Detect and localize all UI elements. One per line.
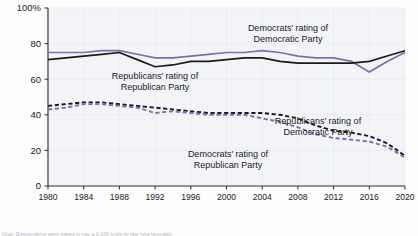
y-tick-label: 100% [17, 2, 42, 13]
line-chart: 100%806040200 19801984198819921996200020… [0, 0, 418, 236]
x-tick-label: 1980 [38, 192, 57, 202]
x-tick-label: 2000 [217, 192, 236, 202]
annotation-line: Republicans' rating of [275, 116, 362, 126]
chart-container: 100%806040200 19801984198819921996200020… [0, 0, 418, 236]
x-tick-label: 2012 [324, 192, 343, 202]
x-tick-label: 1996 [181, 192, 200, 202]
x-tick-label: 2016 [360, 192, 379, 202]
annotation-line: Republican Party [121, 82, 190, 92]
annotation-line: Republicans' rating of [112, 71, 199, 81]
y-tick-label: 80 [30, 38, 41, 49]
x-tick-label: 2004 [253, 192, 272, 202]
annotation-line: Democrats' rating of [188, 149, 269, 159]
x-tick-label: 1984 [74, 192, 93, 202]
annotation-line: Democratic Party [283, 127, 353, 137]
annotation-line: Republican Party [194, 160, 263, 170]
annotation-line: Democrats' rating of [248, 23, 329, 33]
y-axis-ticks: 100%806040200 [17, 2, 48, 191]
annotation-line: Democratic Party [253, 34, 323, 44]
x-tick-label: 1988 [110, 192, 129, 202]
annotation-rep-rating-rep-party: Republicans' rating ofRepublican Party [112, 71, 199, 92]
x-tick-label: 2008 [288, 192, 307, 202]
annotation-rep-rating-dem-party: Republicans' rating ofDemocratic Party [275, 116, 362, 137]
y-tick-label: 0 [36, 180, 41, 191]
x-tick-label: 2020 [395, 192, 414, 202]
chart-footnote: Note: Respondents were asked to use a 0-… [2, 231, 416, 236]
y-tick-label: 20 [30, 145, 41, 156]
annotation-dem-rating-dem-party: Democrats' rating ofDemocratic Party [248, 23, 329, 44]
y-tick-label: 40 [30, 109, 41, 120]
x-axis-ticks: 1980198419881992199620002004200820122016… [38, 186, 414, 202]
x-tick-label: 1992 [146, 192, 165, 202]
annotation-dem-rating-rep-party: Democrats' rating ofRepublican Party [188, 149, 269, 170]
y-tick-label: 60 [30, 74, 41, 85]
